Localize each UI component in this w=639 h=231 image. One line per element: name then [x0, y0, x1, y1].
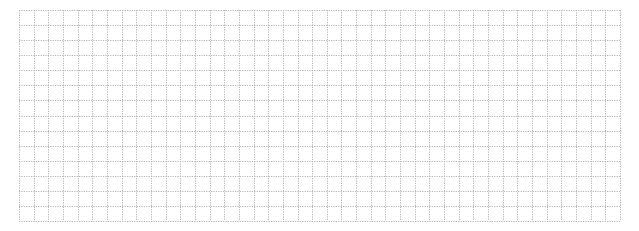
dotted-grid-paper	[19, 10, 621, 222]
